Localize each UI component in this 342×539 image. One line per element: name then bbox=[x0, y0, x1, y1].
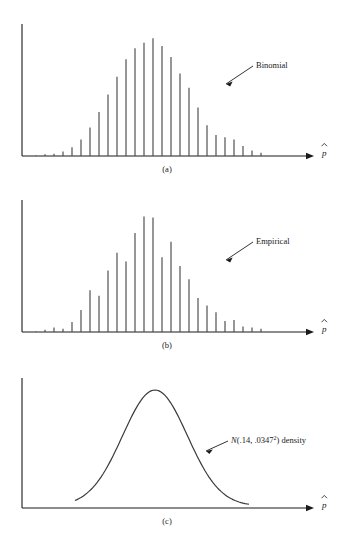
panel-c-caption: (c) bbox=[162, 516, 172, 526]
panel-c-axis-label-text: p bbox=[321, 500, 327, 510]
panel-c-x-axis-arrowhead bbox=[306, 505, 314, 511]
panel-a-x-axis-arrowhead bbox=[306, 153, 314, 159]
panel-a-annotation-arrowhead bbox=[226, 82, 233, 87]
panel-c: N(.14, .03472) density p (c) bbox=[22, 378, 327, 526]
panel-b-spikes bbox=[36, 217, 261, 333]
panel-b-axis-label-text: p bbox=[321, 324, 327, 334]
panel-c-axis-label-circumflex bbox=[322, 495, 327, 498]
panel-b-axis-label-circumflex bbox=[322, 319, 327, 322]
panel-c-axis-label: p bbox=[321, 495, 327, 510]
panel-b-caption: (b) bbox=[162, 340, 172, 350]
panel-c-density-curve bbox=[75, 390, 249, 504]
panel-c-annotation-prefix: (.14, .0347 bbox=[237, 435, 274, 445]
panel-a-caption: (a) bbox=[162, 164, 172, 174]
panel-a-spikes bbox=[36, 38, 261, 156]
panel-a-axis-label-text: p bbox=[321, 148, 327, 158]
panel-a-annotation-label: Binomial bbox=[256, 60, 288, 70]
panel-c-annotation-leader bbox=[206, 441, 228, 451]
panel-b-annotation-label: Empirical bbox=[256, 236, 290, 246]
figure-root: Binomial p (a) Empirical p (b) N(.14, .0… bbox=[0, 0, 342, 539]
panel-a-annotation-leader bbox=[226, 66, 253, 84]
panel-c-annotation-label: N(.14, .03472) density bbox=[230, 435, 307, 445]
panel-b: Empirical p (b) bbox=[22, 200, 327, 350]
panel-a: Binomial p (a) bbox=[22, 24, 327, 174]
panel-b-axis-label: p bbox=[321, 319, 327, 334]
panel-b-annotation-leader bbox=[226, 242, 253, 260]
panel-a-axis-label: p bbox=[321, 143, 327, 158]
panel-c-annotation-suffix: ) density bbox=[277, 435, 307, 445]
panel-b-annotation-arrowhead bbox=[226, 258, 233, 263]
panel-b-x-axis-arrowhead bbox=[306, 329, 314, 335]
panel-a-axis-label-circumflex bbox=[322, 143, 327, 146]
